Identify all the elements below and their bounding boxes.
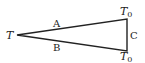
edge-label-top: A — [52, 18, 61, 29]
triangle-diagram: T T0 T0 A B C — [0, 0, 145, 63]
edge-label-bottom: B — [53, 42, 60, 53]
vertex-label-top-right: T0 — [120, 5, 132, 19]
edge-label-right: C — [130, 30, 138, 41]
triangle-shape — [17, 19, 127, 51]
vertex-label-left: T — [6, 29, 15, 42]
vertex-label-bottom-right: T0 — [120, 50, 132, 63]
